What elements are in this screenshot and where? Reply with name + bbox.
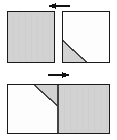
bottom-right-half [58,85,110,134]
bottom-arrow [48,72,70,78]
top-left-square [8,12,55,63]
top-arrow-head-icon [48,3,56,9]
bottom-arrow-head-icon [62,72,70,78]
diagram-canvas [0,0,117,140]
top-right-square [63,12,110,63]
top-arrow [48,3,70,9]
fold-diagram-figure: Fold diagram Two squares side by side, l… [0,0,117,140]
bottom-rectangle [8,85,110,134]
